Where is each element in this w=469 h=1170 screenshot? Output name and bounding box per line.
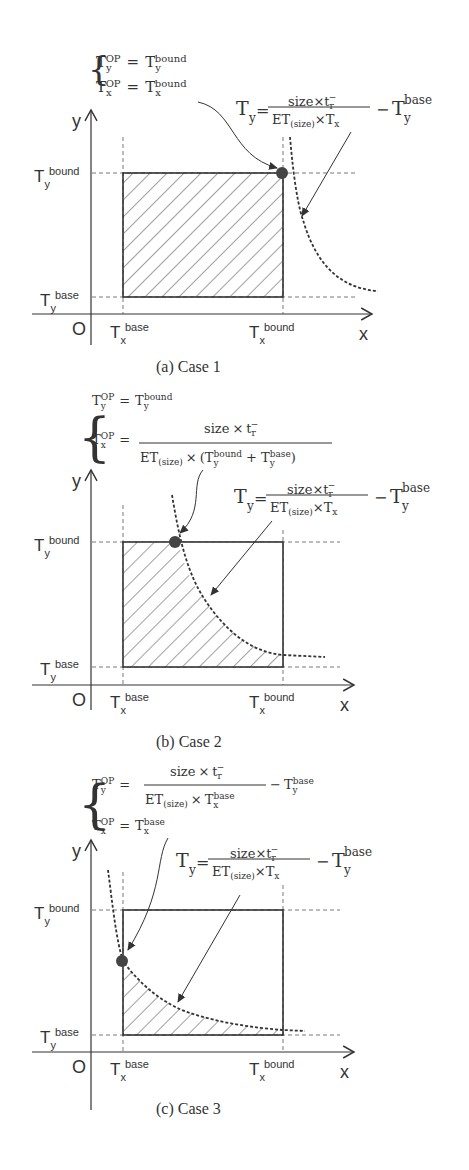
caption-case-2: (b) Case 2 xyxy=(156,733,222,751)
svg-text:x: x xyxy=(340,695,349,715)
op-equations-c: { TyOP= size×tr− ET(size)×Txbase −Tybase… xyxy=(78,762,314,836)
svg-text:base: base xyxy=(404,93,432,107)
origin-label: O xyxy=(72,319,86,339)
operating-point xyxy=(116,955,128,967)
panel-case-2: { TyOP=Tybound TxOP= size×tr− ET(size)×(… xyxy=(32,392,430,751)
svg-text:y: y xyxy=(72,841,81,861)
svg-text:y: y xyxy=(248,111,256,125)
x-axis-label: x xyxy=(359,324,368,344)
svg-text:y: y xyxy=(343,863,351,877)
svg-text:ET(size)×Tx: ET(size)×Tx xyxy=(270,500,337,517)
svg-text:T: T xyxy=(236,97,249,119)
diagram-canvas: { TyOP=Tybound TxOP=Txbound T y = size×t… xyxy=(0,0,469,1170)
svg-text:=: = xyxy=(196,853,209,872)
svg-text:−Tybase: −Tybase xyxy=(270,776,314,795)
curve-equation-b: T y = size×tr− ET(size)×Tx − T y base xyxy=(234,480,430,517)
svg-text:y: y xyxy=(188,863,196,877)
svg-text:Txbase: Txbase xyxy=(110,1058,149,1083)
operating-point xyxy=(169,536,181,548)
svg-text:TyOP=Tybound: TyOP=Tybound xyxy=(92,392,173,411)
svg-text:TyOP=Tybound: TyOP=Tybound xyxy=(96,53,187,73)
svg-text:Tybound: Tybound xyxy=(34,534,79,559)
svg-text:y: y xyxy=(72,471,81,491)
svg-text:ET(size)×Tx: ET(size)×Tx xyxy=(272,112,339,129)
svg-text:size×tr−: size×tr− xyxy=(287,480,335,499)
svg-text:size×tr−: size×tr− xyxy=(204,419,258,438)
y-axis-label: y xyxy=(72,111,81,131)
operating-point xyxy=(276,167,288,179)
svg-text:TxOP=Txbase: TxOP=Txbase xyxy=(92,817,165,836)
svg-text:ET(size)×Tx: ET(size)×Tx xyxy=(212,864,279,881)
svg-text:T: T xyxy=(176,849,189,871)
svg-text:Tybound: Tybound xyxy=(34,902,79,927)
svg-text:y: y xyxy=(403,111,411,125)
svg-text:O: O xyxy=(72,1057,86,1077)
svg-text:size×tr−: size×tr− xyxy=(170,762,224,781)
svg-text:base: base xyxy=(344,845,372,859)
panel-case-3: { TyOP= size×tr− ET(size)×Txbase −Tybase… xyxy=(32,762,372,1118)
svg-text:Tybound: Tybound xyxy=(34,165,79,190)
tick-labels-c: Tybound Tybase Txbase Txbound xyxy=(34,902,294,1083)
svg-text:Tybase: Tybase xyxy=(40,1026,79,1051)
svg-text:−: − xyxy=(376,100,389,119)
svg-text:Txbound: Txbound xyxy=(249,1058,294,1083)
svg-text:base: base xyxy=(402,481,430,495)
svg-text:ET(size)×Txbase: ET(size)×Txbase xyxy=(145,791,235,810)
svg-text:Txbound: Txbound xyxy=(249,691,294,716)
svg-text:Txbound: Txbound xyxy=(249,321,294,346)
svg-text:TxOP=Txbound: TxOP=Txbound xyxy=(96,78,187,98)
svg-text:y: y xyxy=(401,499,409,513)
svg-text:Tybase: Tybase xyxy=(40,289,79,314)
svg-text:−: − xyxy=(374,488,387,507)
svg-text:y: y xyxy=(246,499,254,513)
svg-text:=: = xyxy=(256,101,269,120)
svg-text:ET(size)×(Tybound+Tybase): ET(size)×(Tybound+Tybase) xyxy=(140,449,296,468)
svg-text:size×tr−: size×tr− xyxy=(230,844,278,863)
caption-case-1: (a) Case 1 xyxy=(156,358,221,376)
op-equations-a: { TyOP=Tybound TxOP=Txbound xyxy=(88,48,187,98)
caption-case-3: (c) Case 3 xyxy=(156,1100,221,1118)
panel-case-1: { TyOP=Tybound TxOP=Txbound T y = size×t… xyxy=(32,48,432,376)
curve-equation-c: T y = size×tr− ET(size)×Tx − T y base xyxy=(176,844,372,881)
svg-text:Txbase: Txbase xyxy=(110,691,149,716)
feasible-region xyxy=(123,173,283,297)
svg-text:=: = xyxy=(254,489,267,508)
op-equations-b: { TyOP=Tybound TxOP= size×tr− ET(size)×(… xyxy=(78,392,332,468)
svg-text:Txbase: Txbase xyxy=(110,321,149,346)
svg-text:size×tr−: size×tr− xyxy=(288,92,336,111)
svg-text:Tybase: Tybase xyxy=(40,658,79,683)
svg-text:O: O xyxy=(72,690,86,710)
svg-text:−: − xyxy=(316,852,329,871)
svg-text:T: T xyxy=(234,485,247,507)
curve-equation-a: T y = size×tr− ET(size)×Tx − T y base xyxy=(236,92,432,129)
svg-text:x: x xyxy=(340,1062,349,1082)
